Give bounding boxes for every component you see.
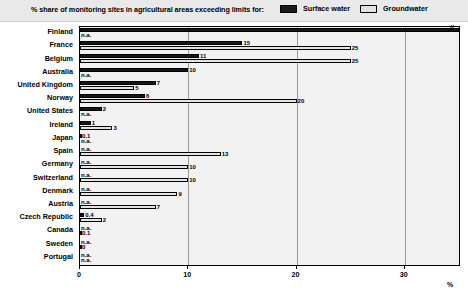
chart-header: % share of monitoring sites in agricultu…	[0, 0, 468, 22]
category-label: Denmark	[42, 187, 73, 195]
bar-row: n.a.13	[80, 146, 459, 159]
axis-tick-label: 30	[400, 270, 408, 279]
bar-na-label: n.a.	[81, 32, 91, 38]
category-label: Czech Republic	[19, 213, 73, 221]
scale-break-marker: //	[450, 24, 454, 31]
legend-swatch-groundwater	[360, 5, 377, 13]
bar-row: 1525	[80, 40, 459, 53]
bar-value-label: 25	[352, 58, 359, 64]
bar-row: n.a.10	[80, 159, 459, 172]
bar-surface-water	[80, 68, 188, 72]
axis-tick-label: 0	[77, 270, 81, 279]
bar-value-label: 2	[103, 217, 106, 223]
legend-label-groundwater: Groundwater	[383, 4, 428, 13]
category-label: United Kingdom	[18, 81, 74, 89]
axis-tick-label: 10	[183, 270, 191, 279]
legend-label-surface-water: Surface water	[303, 4, 350, 13]
plot-area: 75//n.a.1525112510n.a.756202n.a.130.1n.a…	[79, 26, 460, 266]
bar-row: n.a.10	[80, 172, 459, 185]
bar-row: n.a.0	[80, 239, 459, 252]
bar-rows: 75//n.a.1525112510n.a.756202n.a.130.1n.a…	[80, 27, 459, 265]
bar-value-label: 13	[222, 151, 229, 157]
category-label: Australia	[42, 68, 73, 76]
bar-na-label: n.a.	[81, 138, 91, 144]
bar-row: n.a.7	[80, 199, 459, 212]
value-axis: 0102030	[79, 266, 460, 286]
axis-tick	[79, 266, 80, 269]
bar-value-label: 7	[157, 204, 160, 210]
bar-na-label: n.a.	[81, 257, 91, 263]
category-label: Switzerland	[33, 174, 73, 182]
bar-row: 10n.a.	[80, 67, 459, 80]
bar-value-label: 10	[189, 67, 196, 73]
bar-row: 620	[80, 93, 459, 106]
bar-row: 0.1n.a.	[80, 133, 459, 146]
bar-groundwater	[80, 205, 156, 209]
axis-tick	[296, 266, 297, 269]
bar-surface-water	[80, 54, 199, 58]
bar-value-label: 2	[103, 106, 106, 112]
category-label: Norway	[47, 94, 73, 102]
category-label: France	[49, 41, 73, 49]
axis-tick-label: 20	[292, 270, 300, 279]
bar-value-label: 25	[352, 45, 359, 51]
bar-value-label: 3	[113, 125, 116, 131]
bar-na-label: n.a.	[81, 72, 91, 78]
bar-surface-water	[80, 213, 84, 217]
bar-groundwater	[80, 152, 221, 156]
category-label: United States	[27, 107, 73, 115]
bar-value-label: 9	[178, 191, 181, 197]
bar-value-label: 10	[189, 177, 196, 183]
category-label: Austria	[48, 200, 73, 208]
bar-row: n.a.n.a.	[80, 252, 459, 265]
bar-row: 13	[80, 120, 459, 133]
bar-groundwater	[80, 99, 297, 103]
bar-value-label: 7	[157, 80, 160, 86]
category-axis-labels: FinlandFranceBelgiumAustraliaUnited King…	[0, 26, 76, 266]
bar-groundwater	[80, 218, 102, 222]
bar-groundwater	[80, 59, 351, 63]
category-label: Sweden	[46, 240, 73, 248]
category-label: Finland	[47, 28, 73, 36]
chart-figure: % share of monitoring sites in agricultu…	[0, 0, 468, 295]
bar-groundwater	[80, 165, 188, 169]
bar-value-label: 5	[135, 85, 138, 91]
category-label: Belgium	[45, 55, 73, 63]
category-label: Portugal	[44, 253, 73, 261]
axis-tick	[187, 266, 188, 269]
category-label: Japan	[52, 134, 73, 142]
axis-tick	[404, 266, 405, 269]
category-label: Canada	[47, 226, 73, 234]
bar-groundwater	[80, 192, 177, 196]
bar-surface-water	[80, 121, 91, 125]
bar-value-label: 0	[82, 244, 85, 250]
bar-surface-water	[80, 41, 242, 45]
chart-title: % share of monitoring sites in agricultu…	[31, 5, 264, 14]
legend-swatch-surface-water	[280, 5, 297, 13]
bar-row: n.a.9	[80, 186, 459, 199]
bar-row: 0.42	[80, 212, 459, 225]
bar-row: 75//n.a.	[80, 27, 459, 40]
bar-row: 75	[80, 80, 459, 93]
bar-surface-water	[80, 94, 145, 98]
bar-groundwater	[80, 126, 112, 130]
category-label: Spain	[53, 147, 73, 155]
bar-value-label: 10	[189, 164, 196, 170]
category-label: Germany	[42, 160, 73, 168]
bar-groundwater	[80, 86, 134, 90]
bar-groundwater	[80, 178, 188, 182]
axis-unit-label: %	[447, 281, 453, 288]
bar-value-label: 0.1	[82, 230, 90, 236]
bar-surface-water	[80, 81, 156, 85]
bar-na-label: n.a.	[81, 111, 91, 117]
bar-groundwater	[80, 46, 351, 50]
bar-row: 1125	[80, 53, 459, 66]
bar-row: 2n.a.	[80, 106, 459, 119]
category-label: Ireland	[49, 121, 73, 129]
bar-surface-water	[80, 28, 459, 32]
bar-row: n.a.0.1	[80, 225, 459, 238]
bar-value-label: 20	[298, 98, 305, 104]
